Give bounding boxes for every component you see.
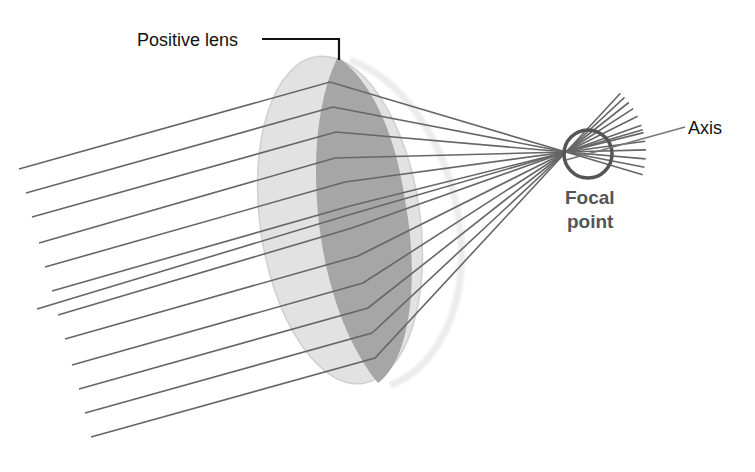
focal-label-line1: Focal xyxy=(565,187,615,208)
focal-label-line2: point xyxy=(567,211,614,232)
axis-label: Axis xyxy=(688,118,722,138)
lens-diagram: Positive lens Axis Focal point xyxy=(0,0,755,472)
lens-label: Positive lens xyxy=(137,30,238,50)
